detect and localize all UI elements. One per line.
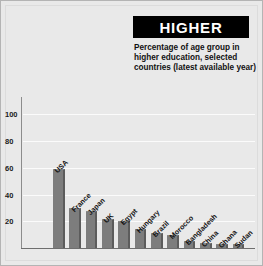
y-axis-line	[21, 97, 22, 249]
bar-usa	[53, 169, 65, 248]
chart-caption: Percentage of age group in higher educat…	[134, 43, 256, 74]
chart-title-box: HIGHER	[133, 16, 249, 38]
y-axis-tick-label: 40	[5, 190, 13, 199]
gridline	[23, 114, 255, 115]
chart-title: HIGHER	[159, 19, 222, 36]
y-axis-tick-label: 20	[5, 217, 13, 226]
y-axis-tick-label: 80	[5, 137, 13, 146]
chart-figure: HIGHER Percentage of age group in higher…	[0, 0, 263, 266]
gridline	[23, 141, 255, 142]
y-axis-tick-label: 100	[5, 110, 18, 119]
y-axis-tick-label: 60	[5, 163, 13, 172]
x-axis-line	[21, 248, 255, 249]
